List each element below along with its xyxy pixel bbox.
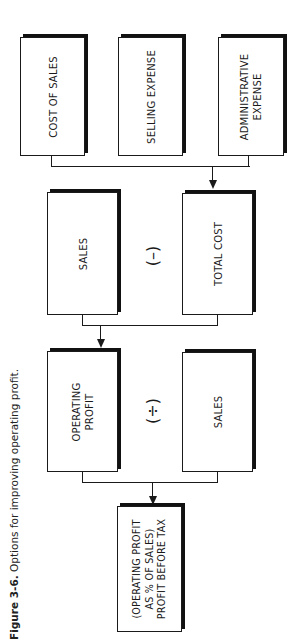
arrow-down-icon <box>97 339 105 348</box>
operating-profit-label-line1: OPERATING <box>70 382 83 441</box>
result-label-line1: (OPERATING PROFIT <box>131 519 144 619</box>
figure-label: Figure 3-6. <box>8 575 20 640</box>
figure-caption-text: Options for improving operating profit. <box>8 369 20 572</box>
cost-of-sales-box: COST OF SALES <box>20 37 85 156</box>
figure-caption: Figure 3-6. Options for improving operat… <box>8 369 20 640</box>
sales-box-row3: SALES <box>182 352 253 472</box>
arrow-down-icon <box>209 180 217 189</box>
sales-label-row3: SALES <box>211 396 224 429</box>
connector-row1-horizontal <box>51 166 250 167</box>
connector-row1-down <box>212 166 213 181</box>
administrative-expense-label-line1: ADMINISTRATIVE <box>238 53 251 140</box>
administrative-expense-box: ADMINISTRATIVE EXPENSE <box>218 37 284 156</box>
cost-of-sales-label: COST OF SALES <box>46 56 59 138</box>
sales-label-row2: SALES <box>76 237 89 270</box>
connector-row2-horizontal <box>82 325 218 326</box>
connector-row3-down <box>152 482 153 497</box>
connector-row2-down <box>100 325 101 340</box>
result-label-line3: PROFIT BEFORE TAX <box>156 519 169 619</box>
sales-box-row2: SALES <box>47 192 118 315</box>
administrative-expense-label-line2: EXPENSE <box>251 53 264 140</box>
divide-operator: (÷) <box>143 398 162 424</box>
selling-expense-box: SELLING EXPENSE <box>118 37 183 156</box>
minus-operator: (–) <box>143 246 162 266</box>
arrow-down-icon <box>149 496 157 505</box>
selling-expense-label: SELLING EXPENSE <box>144 50 157 144</box>
connector-row3-horizontal <box>82 482 218 483</box>
total-cost-label: TOTAL COST <box>211 222 224 286</box>
operating-profit-percent-box: (OPERATING PROFIT AS % OF SALES) PROFIT … <box>117 506 182 632</box>
total-cost-box: TOTAL COST <box>182 193 253 315</box>
operating-profit-label-line2: PROFIT <box>83 382 96 441</box>
result-label-line2: AS % OF SALES) <box>143 519 156 619</box>
operating-profit-box: OPERATING PROFIT <box>47 351 118 472</box>
